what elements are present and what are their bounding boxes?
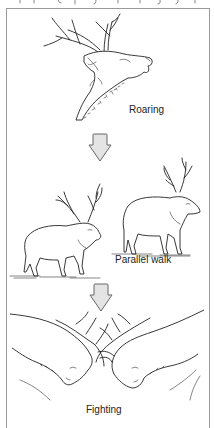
- fighting-stags-illustration: [0, 310, 214, 410]
- roaring-stag-illustration: [0, 0, 214, 130]
- stage-label-parallel-walk: Parallel walk: [115, 254, 171, 265]
- stage-label-roaring: Roaring: [129, 104, 164, 115]
- down-arrow-icon: [89, 283, 113, 313]
- stage-label-fighting: Fighting: [86, 404, 122, 415]
- parallel-walk-stags-illustration: [0, 140, 214, 280]
